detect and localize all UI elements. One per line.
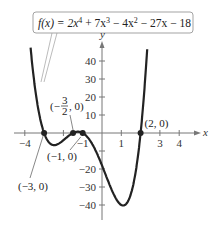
svg-text:−40: −40: [79, 199, 97, 211]
svg-text:4: 4: [176, 137, 182, 149]
svg-text:−4: −4: [19, 137, 31, 149]
svg-text:(2, 0): (2, 0): [145, 117, 169, 130]
svg-text:y: y: [99, 28, 105, 40]
svg-text:40: 40: [85, 55, 97, 67]
svg-text:−1: −1: [77, 137, 89, 149]
function-graph: f(x) = 2x4 + 7x3 − 4x2 − 27x − 18 xy−4−1…: [0, 0, 212, 226]
svg-text:(−: (−: [50, 100, 60, 113]
svg-text:30: 30: [85, 73, 97, 85]
svg-text:(−3, 0): (−3, 0): [18, 180, 48, 193]
zero-point: [70, 130, 76, 136]
svg-text:10: 10: [85, 109, 97, 121]
zero-point: [41, 130, 47, 136]
function-callout: f(x) = 2x4 + 7x3 − 4x2 − 27x − 18: [33, 12, 193, 82]
function-label: f(x) = 2x4 + 7x3 − 4x2 − 27x − 18: [38, 16, 191, 30]
svg-text:−30: −30: [79, 181, 97, 193]
svg-text:−20: −20: [79, 163, 97, 175]
svg-text:x: x: [202, 126, 208, 138]
svg-text:1: 1: [119, 137, 125, 149]
zero-point: [80, 130, 86, 136]
zero-point: [138, 130, 144, 136]
svg-text:, 0): , 0): [69, 100, 84, 113]
svg-text:2: 2: [62, 105, 68, 117]
svg-text:3: 3: [157, 137, 163, 149]
svg-text:(−1, 0): (−1, 0): [47, 150, 77, 163]
svg-text:20: 20: [85, 91, 97, 103]
